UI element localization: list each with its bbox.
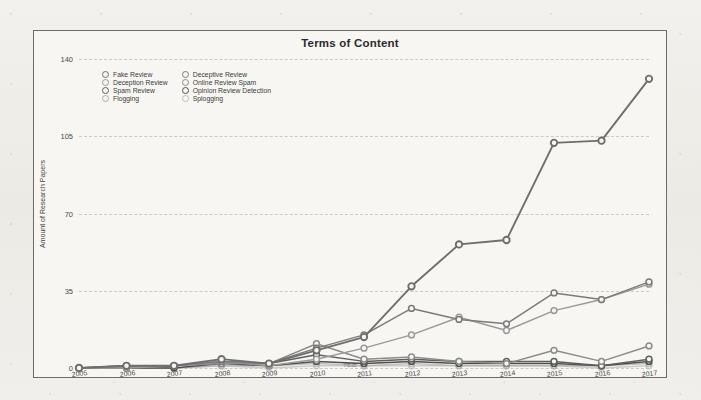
x-tick-label: 2012 [404,369,420,378]
y-tick-label: 140 [60,55,73,64]
chart-title: Terms of Content [34,37,666,49]
x-tick-label: 2015 [546,369,562,378]
x-tick-label: 2014 [499,369,515,378]
y-tick-label: 105 [60,132,73,141]
series-fake-review [76,76,652,372]
chart-frame: Terms of Content Amount of Research Pape… [33,30,667,378]
x-tick-label: 2013 [451,369,467,378]
y-tick-label: 70 [65,209,73,218]
y-axis-label: Amount of Research Papers [39,160,46,248]
x-tick-label: 2011 [357,369,373,378]
x-tick-label: 2017 [641,369,657,378]
plot-area: 03570105140 2005200620072008200920102011… [79,59,649,368]
x-tick-label: 2010 [309,369,325,378]
series-lines [79,59,649,368]
y-tick-label: 35 [65,286,73,295]
x-tick-label: 2008 [214,369,230,378]
